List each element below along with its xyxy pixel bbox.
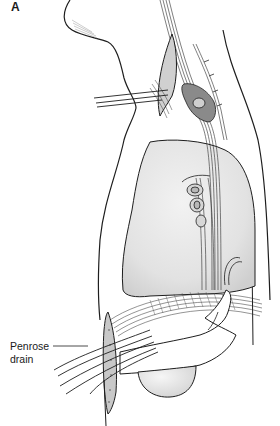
callout-line-2: drain [10,353,49,366]
penrose-drain-label: Penrose drain [10,340,49,366]
organ-sac [122,140,255,297]
retractor-blade-top [158,34,176,116]
tissue-node [193,98,205,108]
fibrous-band [110,294,262,336]
panel-label: A [11,0,20,14]
callout-line-1: Penrose [10,340,49,353]
surgical-illustration: A Penrose drain [0,0,280,426]
